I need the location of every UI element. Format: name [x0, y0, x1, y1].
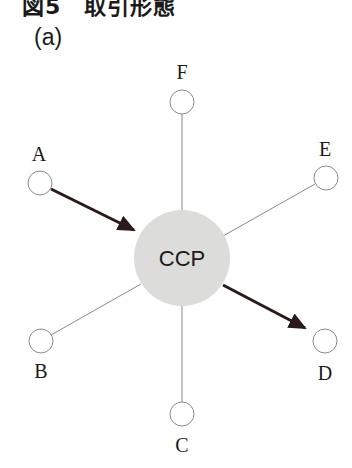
node-c	[170, 402, 194, 426]
ccp-diagram: CCP F A E B D C	[0, 0, 352, 468]
node-d-label: D	[318, 362, 332, 384]
edge-e-ccp	[223, 184, 315, 236]
node-e	[314, 166, 338, 190]
arrow-a-to-ccp	[51, 189, 134, 230]
node-b	[29, 329, 53, 353]
node-a	[28, 171, 52, 195]
node-b-label: B	[34, 360, 47, 382]
node-a-label: A	[32, 143, 47, 165]
node-c-label: C	[175, 434, 188, 456]
ccp-label: CCP	[159, 246, 205, 271]
node-d	[313, 329, 337, 353]
edge-b-ccp	[51, 284, 141, 335]
arrow-ccp-to-d	[223, 285, 305, 328]
node-e-label: E	[319, 138, 331, 160]
node-f-label: F	[176, 61, 187, 83]
node-f	[170, 90, 194, 114]
